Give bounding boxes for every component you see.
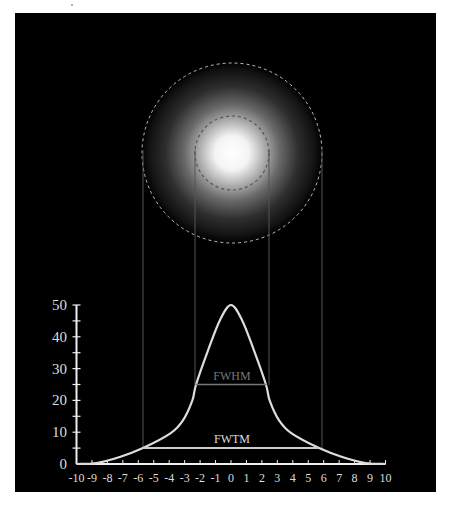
y-tick-label: 40 [52, 329, 67, 345]
x-tick-label: -7 [118, 471, 128, 485]
fwtm-label: FWTM [214, 432, 250, 446]
x-tick-label: -4 [164, 471, 174, 485]
y-tick-label: 10 [52, 424, 67, 440]
x-tick-label: -1 [211, 471, 221, 485]
y-tick-label: 30 [52, 361, 67, 377]
x-tick-label: 6 [321, 471, 327, 485]
x-tick-label: 5 [305, 471, 311, 485]
x-tick-label: 8 [352, 471, 358, 485]
x-tick-label: 1 [243, 471, 249, 485]
x-tick-label: -6 [133, 471, 143, 485]
y-tick-label: 50 [52, 297, 67, 313]
x-tick-label: 9 [367, 471, 373, 485]
y-tick-label: 20 [52, 392, 67, 408]
x-tick-label: -2 [195, 471, 205, 485]
spot-glow [137, 58, 327, 248]
x-tick-label: 2 [259, 471, 265, 485]
x-tick-label: 10 [380, 471, 392, 485]
y-tick-label: 0 [60, 456, 68, 472]
x-tick-label: -5 [149, 471, 159, 485]
x-tick-label: -9 [87, 471, 97, 485]
x-tick-label: -8 [102, 471, 112, 485]
fwhm-label: FWHM [213, 369, 251, 383]
x-tick-label: 0 [228, 471, 234, 485]
x-tick-label: -10 [69, 471, 85, 485]
x-tick-label: -3 [180, 471, 190, 485]
x-tick-label: 4 [290, 471, 296, 485]
x-tick-label: 7 [336, 471, 342, 485]
x-tick-label: 3 [274, 471, 280, 485]
psf-diagram: FWHM FWTM -10-9-8-7-6-5-4-3-2-1012345678… [0, 0, 451, 506]
